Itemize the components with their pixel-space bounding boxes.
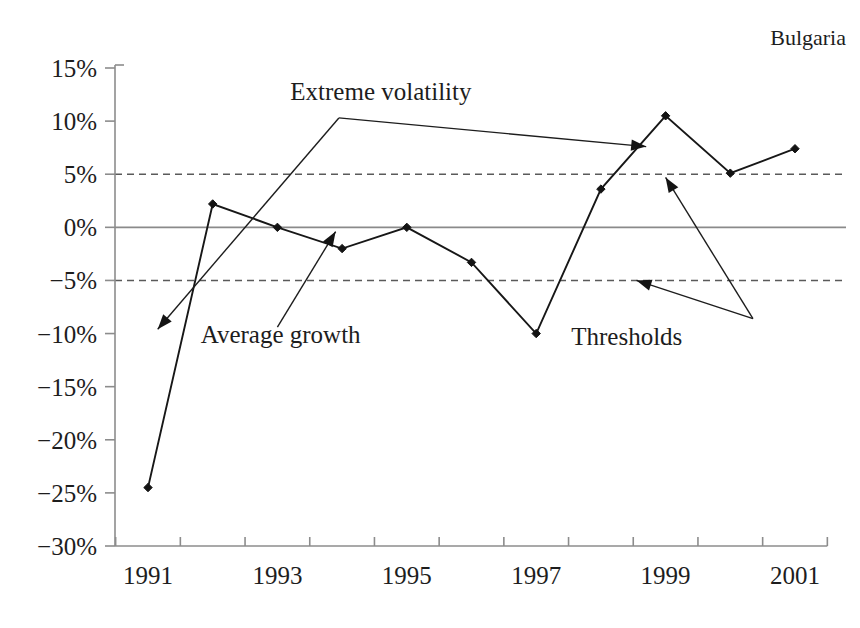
thresholds-arrow-head-0 [666, 177, 679, 193]
data-point-marker-0-4 [403, 223, 411, 231]
annotation-labels-group: Extreme volatilityAverage growthThreshol… [201, 78, 683, 350]
thresholds-leader-line-1 [636, 280, 752, 318]
growth-volatility-line-chart: 15%10%5%0%−5%−10%−15%−20%−25%−30% 199119… [0, 0, 860, 628]
data-point-marker-0-2 [273, 223, 281, 231]
y-tick-label-5: −10% [37, 321, 97, 348]
reference-lines-group [115, 174, 846, 280]
y-tick-label-3: 0% [64, 214, 97, 241]
thresholds-arrow-head-1 [637, 280, 653, 291]
y-tick-label-4: −5% [50, 267, 97, 294]
data-point-marker-0-1 [209, 200, 217, 208]
x-tick-label-3: 1997 [511, 562, 561, 589]
y-tick-label-7: −20% [37, 427, 97, 454]
axes-group [105, 65, 827, 546]
y-tick-label-8: −25% [37, 480, 97, 507]
x-tick-labels-group: 199119931995199719992001 [123, 562, 820, 589]
thresholds-annotation-label: Thresholds [571, 323, 682, 350]
y-tick-label-2: 5% [64, 161, 97, 188]
x-tick-label-1: 1993 [252, 562, 302, 589]
data-point-marker-0-3 [338, 244, 346, 252]
x-tick-label-2: 1995 [382, 562, 432, 589]
average-growth-annotation-label: Average growth [201, 321, 361, 348]
country-label: Bulgaria [770, 25, 846, 50]
y-tick-label-9: −30% [37, 533, 97, 560]
x-tick-label-0: 1991 [123, 562, 173, 589]
y-tick-labels-group: 15%10%5%0%−5%−10%−15%−20%−25%−30% [37, 55, 97, 560]
y-tick-label-6: −15% [37, 374, 97, 401]
extreme-volatility-arrow-head-0 [158, 314, 172, 329]
y-tick-label-0: 15% [51, 55, 97, 82]
thresholds-leader-line-0 [666, 177, 753, 318]
annotation-leaders-group [158, 118, 753, 329]
data-point-marker-0-0 [144, 483, 152, 491]
extreme-volatility-leader-line-0 [158, 118, 339, 329]
x-tick-label-4: 1999 [641, 562, 691, 589]
chart-container: 15%10%5%0%−5%−10%−15%−20%−25%−30% 199119… [0, 0, 860, 628]
extreme-volatility-annotation-label: Extreme volatility [290, 78, 472, 105]
data-point-marker-0-10 [791, 145, 799, 153]
y-tick-label-1: 10% [51, 108, 97, 135]
average-growth-leader-line-0 [277, 232, 335, 328]
series-line-0 [148, 116, 795, 488]
x-tick-label-5: 2001 [770, 562, 820, 589]
extreme-volatility-leader-line-1 [339, 118, 646, 147]
